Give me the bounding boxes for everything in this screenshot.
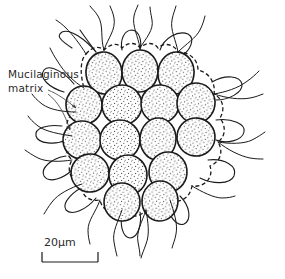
scale-bar-rule <box>42 252 98 262</box>
cell <box>100 120 140 160</box>
matrix-label-line2: matrix <box>8 82 43 94</box>
scale-bar: 20µm <box>42 236 98 262</box>
sheath-lobe-right-lower <box>200 160 235 183</box>
flagellum <box>178 16 205 52</box>
flagellum <box>214 94 263 99</box>
flagellum <box>214 71 259 94</box>
flagellum <box>134 5 140 48</box>
cell <box>103 182 141 222</box>
flagellum <box>141 210 148 258</box>
flagellum <box>90 6 104 50</box>
flagellum <box>88 200 100 244</box>
flagellum <box>104 6 114 50</box>
flagellum <box>172 6 178 52</box>
scale-bar-label: 20µm <box>44 236 76 249</box>
sheath-lobe-left-lower <box>43 156 72 180</box>
matrix-label-line1: Mucilaginous <box>8 68 79 80</box>
flagellum <box>138 210 146 256</box>
flagellum <box>56 20 86 54</box>
cell <box>102 85 142 125</box>
flagellum <box>218 142 263 159</box>
flagellum <box>192 186 235 198</box>
sheath-lobe-right-mid <box>216 120 244 142</box>
flagellum <box>44 184 82 214</box>
figure-container: Mucilaginous matrix 20µm <box>0 0 285 279</box>
colonial-alga-diagram: Mucilaginous matrix 20µm <box>0 0 285 279</box>
cell <box>175 116 217 158</box>
flagellum <box>140 7 152 48</box>
sheath-lobe-right-upper <box>212 77 242 100</box>
